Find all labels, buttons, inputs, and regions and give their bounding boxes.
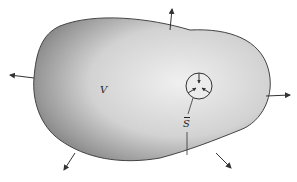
- volume-label: V: [100, 84, 107, 95]
- normal-arrow-bottom-left: [64, 153, 75, 170]
- normal-arrow-left: [10, 75, 34, 78]
- overbar: [184, 117, 190, 118]
- volume-diagram: [0, 0, 297, 182]
- surface-label: S: [183, 118, 190, 129]
- surface-label-text: S: [183, 118, 190, 129]
- volume-body: [34, 18, 271, 161]
- diagram-canvas: V S: [0, 0, 297, 182]
- normal-arrow-bottom-right: [216, 153, 231, 168]
